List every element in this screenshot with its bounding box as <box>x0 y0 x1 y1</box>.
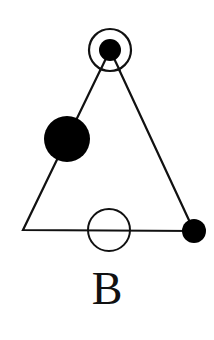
figure-label: B <box>0 264 214 314</box>
bottom-right-dot-icon <box>182 219 206 243</box>
top-inner-dot-icon <box>99 39 121 61</box>
left-large-dot-icon <box>44 116 90 162</box>
